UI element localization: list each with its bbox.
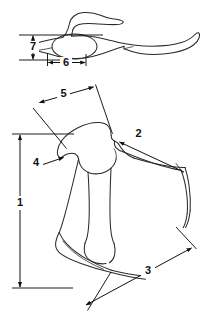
dim-7-label: 7 [30,40,36,52]
dim-2-group: 2 [120,127,185,172]
dim-3-label: 3 [145,264,151,276]
lower-view-outline [56,123,191,280]
dim-5-extension-right [96,85,113,135]
measurement-diagram: 7 6 [0,0,222,331]
dim-3-extension-lower [88,272,112,311]
upper-view-outline [28,12,200,59]
figure-root: 7 6 [0,0,222,331]
dim-6-label: 6 [63,56,69,68]
dim-5-label: 5 [60,87,66,99]
dim-4-leader [43,158,64,165]
dim-1-label: 1 [17,196,23,208]
dim-2-label: 2 [135,127,141,139]
dim-3-extension-upper [176,227,197,249]
dim-2-leader [120,142,185,172]
dim-5-extension-left [33,108,67,149]
dim-4-group: 4 [30,156,64,170]
dim-4-label: 4 [33,156,40,168]
dim-3-line [86,248,192,305]
dim-5-group: 5 [33,85,113,149]
